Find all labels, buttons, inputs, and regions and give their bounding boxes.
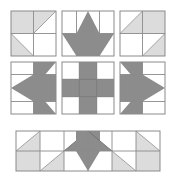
arrow-block-middle-left [11, 62, 56, 114]
patch-arrow-left-center [34, 75, 57, 102]
star-block-top-middle [62, 11, 114, 56]
patch-strip-c6-bottom [136, 151, 160, 171]
border-strip-bottom [16, 131, 160, 171]
quilt-svg [0, 0, 176, 177]
corner-block-top-left [11, 11, 56, 56]
cross-block-center [62, 62, 114, 114]
patch-cross-horizontal-bar [62, 79, 114, 96]
patch-strip-c1-bottom [16, 151, 40, 171]
arrow-block-middle-right [120, 62, 165, 114]
corner-block-top-right [120, 11, 165, 56]
patch-tl-top-left [11, 11, 34, 34]
patch-tr-top-right [143, 11, 166, 34]
patch-arrow-right-center [120, 75, 143, 102]
patch-star-center [77, 34, 100, 57]
quilt-diagram [0, 0, 176, 177]
